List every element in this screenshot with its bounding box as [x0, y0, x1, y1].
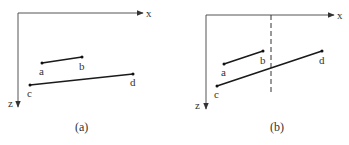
segment-ab: a b: [39, 56, 85, 78]
panel-b: x z a b c d (b): [195, 9, 343, 134]
point-d: [321, 50, 324, 53]
x-axis-label: x: [337, 9, 343, 21]
point-b: [81, 56, 84, 59]
point-c-label: c: [27, 87, 32, 99]
panel-a-caption: (a): [75, 120, 88, 134]
z-axis-label: z: [195, 99, 200, 111]
point-b-label: b: [79, 60, 85, 72]
z-axis-label: z: [8, 97, 13, 109]
segment-ab: a b: [221, 50, 266, 79]
point-c-label: c: [214, 88, 219, 100]
point-b-label: b: [260, 54, 266, 66]
point-a-label: a: [39, 65, 44, 77]
segment-cd: c d: [214, 50, 325, 101]
panel-a: x z a b c d (a): [8, 7, 152, 134]
diagram-canvas: x z a b c d (a) x z a b: [0, 0, 349, 145]
point-a-label: a: [221, 66, 226, 78]
panel-b-caption: (b): [270, 120, 284, 134]
point-b: [262, 50, 265, 53]
x-axis-label: x: [146, 7, 152, 19]
point-d-label: d: [319, 54, 325, 66]
point-d-label: d: [130, 76, 136, 88]
